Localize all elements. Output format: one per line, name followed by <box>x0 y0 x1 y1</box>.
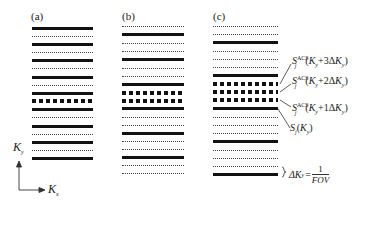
fraction: 1 FOV <box>312 164 330 185</box>
leader-line-sj <box>278 109 290 128</box>
brace-icon <box>282 167 286 177</box>
annotation-sj: Sj(Ky) <box>290 122 313 135</box>
kx-axis-label: Kx <box>48 182 59 197</box>
annotation-acs-plus2: SACSj(Ky+2ΔKy) <box>292 75 348 88</box>
leader-line-acs3 <box>280 64 291 84</box>
axes-arrows <box>17 161 46 193</box>
leader-line-acs2 <box>280 84 291 92</box>
arrow-right-icon <box>39 188 45 193</box>
arrow-up-icon <box>17 161 22 167</box>
annotation-acs-plus3: SACSj(Ky+3ΔKy) <box>292 55 348 68</box>
delta-ky-formula: ΔKy = 1 FOV <box>289 164 329 185</box>
annotation-acs-plus1: SACSj(Ky+1ΔKy) <box>292 102 348 115</box>
leader-line-acs1 <box>280 100 291 107</box>
ky-axis-label: Ky <box>13 140 24 155</box>
